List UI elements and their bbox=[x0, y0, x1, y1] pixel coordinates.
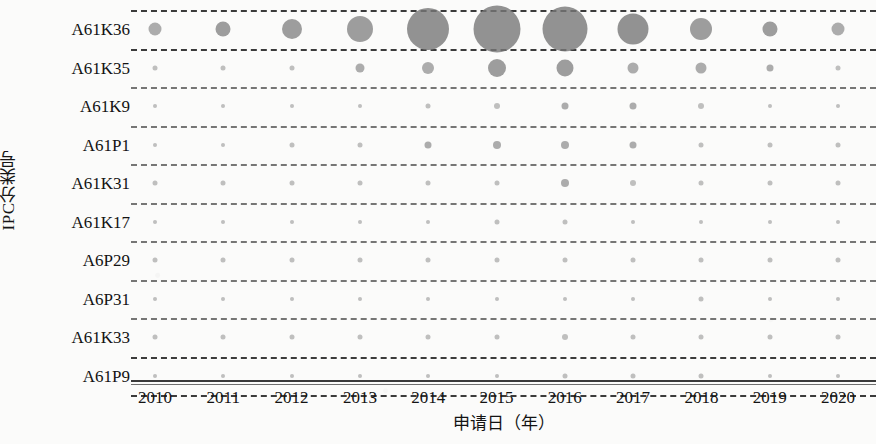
bubble bbox=[836, 297, 840, 301]
bubble bbox=[767, 335, 772, 340]
bubble bbox=[221, 104, 225, 108]
bubble bbox=[426, 374, 430, 378]
bubble bbox=[561, 103, 568, 110]
bubble bbox=[289, 335, 294, 340]
bubble bbox=[699, 181, 704, 186]
bubble bbox=[631, 373, 636, 378]
y-tick-label: A61P1 bbox=[30, 136, 130, 153]
x-axis-title: 申请日（年） bbox=[131, 414, 876, 434]
bubble bbox=[767, 142, 772, 147]
gridline bbox=[131, 318, 876, 320]
bubble bbox=[494, 181, 499, 186]
x-tick-label: 2014 bbox=[411, 388, 445, 408]
bubble bbox=[153, 335, 158, 340]
x-axis-line-secondary bbox=[131, 384, 876, 385]
bubble bbox=[426, 258, 431, 263]
bubble bbox=[767, 258, 772, 263]
bubble bbox=[221, 143, 225, 147]
y-axis-tick-labels: A61K36A61K35A61K9A61P1A61K31A61K17A6P29A… bbox=[22, 0, 130, 444]
bubble bbox=[153, 181, 158, 186]
gridline bbox=[131, 126, 876, 128]
y-tick-label: A6P29 bbox=[30, 252, 130, 269]
bubble bbox=[836, 374, 840, 378]
y-tick-label: A61K31 bbox=[30, 175, 130, 192]
x-tick-label: 2010 bbox=[138, 388, 172, 408]
bubble bbox=[562, 219, 567, 224]
gridline bbox=[131, 164, 876, 166]
bubble bbox=[149, 23, 162, 36]
bubble bbox=[282, 19, 302, 39]
gridline bbox=[131, 241, 876, 243]
bubble bbox=[630, 141, 637, 148]
bubble bbox=[494, 103, 500, 109]
gridline bbox=[131, 357, 876, 359]
bubble-chart: IPC分类号 A61K36A61K35A61K9A61P1A61K31A61K1… bbox=[0, 0, 876, 444]
y-tick-label: A61K35 bbox=[30, 59, 130, 76]
bubble bbox=[425, 141, 432, 148]
bubble bbox=[836, 258, 841, 263]
bubble bbox=[358, 374, 362, 378]
bubble bbox=[357, 335, 362, 340]
bubble bbox=[631, 297, 635, 301]
bubble bbox=[290, 104, 294, 108]
bubble bbox=[836, 220, 840, 224]
bubble bbox=[426, 335, 431, 340]
bubble bbox=[153, 220, 157, 224]
gridline bbox=[131, 280, 876, 282]
bubble bbox=[153, 143, 157, 147]
x-tick-label: 2019 bbox=[753, 388, 787, 408]
bubble bbox=[494, 335, 499, 340]
bubble bbox=[153, 297, 157, 301]
bubble bbox=[542, 7, 587, 52]
bubble bbox=[221, 65, 226, 70]
bubble bbox=[766, 64, 773, 71]
bubble bbox=[357, 142, 362, 147]
x-tick-label: 2017 bbox=[616, 388, 650, 408]
bubble bbox=[358, 220, 362, 224]
plot-area bbox=[131, 0, 876, 379]
y-tick-label: A6P31 bbox=[30, 290, 130, 307]
bubble bbox=[556, 59, 573, 76]
bubble bbox=[628, 62, 639, 73]
x-tick-label: 2015 bbox=[480, 388, 514, 408]
bubble bbox=[836, 142, 841, 147]
x-axis-tick-labels: 2010201120122013201420152016201720182019… bbox=[131, 388, 876, 414]
bubble bbox=[355, 63, 364, 72]
bubble bbox=[347, 16, 373, 42]
y-tick-label: A61P9 bbox=[30, 367, 130, 384]
bubble bbox=[836, 104, 840, 108]
bubble bbox=[289, 142, 294, 147]
bubble bbox=[495, 297, 499, 301]
bubble bbox=[836, 335, 841, 340]
bubble bbox=[699, 258, 704, 263]
bubble bbox=[221, 220, 225, 224]
y-tick-label: A61K17 bbox=[30, 213, 130, 230]
gridline bbox=[131, 203, 876, 205]
bubble bbox=[216, 22, 231, 37]
bubble bbox=[153, 65, 158, 70]
bubble bbox=[426, 104, 431, 109]
bubble bbox=[495, 374, 499, 378]
bubble bbox=[832, 23, 845, 36]
bubble bbox=[426, 220, 430, 224]
bubble bbox=[699, 142, 704, 147]
bubble bbox=[357, 258, 362, 263]
bubble bbox=[221, 297, 225, 301]
bubble bbox=[696, 62, 707, 73]
y-axis-title: IPC分类号 bbox=[0, 150, 22, 230]
bubble bbox=[221, 374, 225, 378]
bubble bbox=[426, 181, 431, 186]
bubble bbox=[561, 179, 569, 187]
bubble bbox=[493, 141, 501, 149]
bubble bbox=[698, 103, 704, 109]
bubble bbox=[153, 258, 158, 263]
bubble bbox=[618, 14, 649, 45]
bubble bbox=[221, 181, 226, 186]
bubble bbox=[561, 141, 569, 149]
y-tick-label: A61K33 bbox=[30, 329, 130, 346]
y-tick-label: A61K36 bbox=[30, 21, 130, 38]
bubble bbox=[699, 220, 703, 224]
gridline bbox=[131, 87, 876, 89]
x-tick-label: 2011 bbox=[207, 388, 240, 408]
bubble bbox=[631, 220, 635, 224]
